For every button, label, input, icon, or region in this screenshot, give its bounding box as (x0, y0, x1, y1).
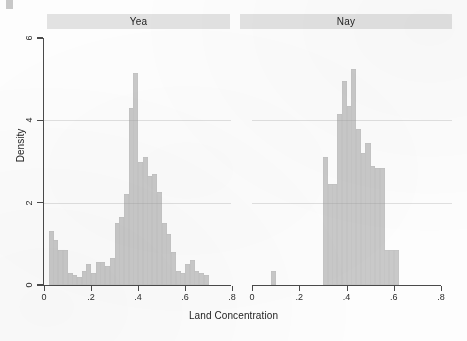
y-axis-tick-label: 0 (24, 279, 34, 292)
plot-area-yea (44, 31, 231, 283)
y-axis-tick-mark (37, 37, 43, 38)
x-axis-tick-label: .4 (130, 292, 146, 303)
x-axis-tick-mark (347, 286, 348, 291)
x-axis-tick-mark (91, 286, 92, 291)
panel-header-yea: Yea (47, 14, 230, 29)
panel-header-nay: Nay (240, 14, 452, 29)
x-axis-line-yea (43, 285, 231, 286)
x-axis-tick-label: 0 (244, 292, 260, 303)
y-axis-tick-mark (37, 120, 43, 121)
x-axis-tick-mark (394, 286, 395, 291)
figure-canvas: Yea Nay 0246 0.2.4.6.8 0.2.4.6.8 Density… (0, 0, 467, 341)
plot-area-nay (252, 31, 452, 283)
x-axis-tick-mark (232, 286, 233, 291)
x-axis-tick-label: .6 (386, 292, 402, 303)
y-axis-tick-mark (37, 284, 43, 285)
x-axis-tick-label: .8 (433, 292, 449, 303)
x-axis-tick-label: .2 (291, 292, 307, 303)
x-axis-tick-mark (44, 286, 45, 291)
x-axis-tick-mark (299, 286, 300, 291)
y-axis-title: Density (15, 106, 26, 186)
x-axis-tick-label: .8 (224, 292, 240, 303)
y-axis-tick-mark (37, 202, 43, 203)
y-axis-tick-label: 6 (24, 32, 34, 45)
x-axis-tick-mark (441, 286, 442, 291)
x-axis-tick-label: 0 (36, 292, 52, 303)
panel-header-nay-label: Nay (337, 16, 355, 27)
gridline (44, 120, 231, 121)
x-axis-tick-label: .6 (177, 292, 193, 303)
histogram-bar (394, 250, 399, 285)
y-axis-tick-label: 2 (24, 196, 34, 209)
x-axis-tick-label: .2 (83, 292, 99, 303)
x-axis-title: Land Concentration (0, 310, 467, 321)
gridline (252, 203, 452, 204)
x-axis-tick-label: .4 (339, 292, 355, 303)
histogram-bar (271, 271, 276, 285)
gridline (44, 203, 231, 204)
x-axis-tick-mark (185, 286, 186, 291)
histogram-bar (204, 275, 209, 285)
x-axis-tick-mark (252, 286, 253, 291)
gridline (252, 120, 452, 121)
scan-artifact (6, 0, 13, 9)
y-axis-line (43, 38, 44, 286)
panel-header-yea-label: Yea (130, 16, 147, 27)
x-axis-tick-mark (138, 286, 139, 291)
